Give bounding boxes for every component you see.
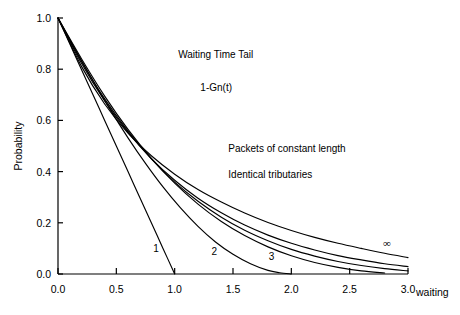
curve-label: 1 bbox=[153, 243, 159, 254]
chart-figure: 0.00.20.40.60.81.0 0.00.51.01.52.02.53.0… bbox=[0, 0, 460, 315]
y-axis-title: Probability bbox=[12, 121, 24, 171]
y-tick-label: 0.0 bbox=[36, 268, 51, 280]
x-tick-label: 1.5 bbox=[226, 283, 241, 295]
y-tick-label: 0.2 bbox=[36, 217, 51, 229]
chart-annotation: 1-Gn(t) bbox=[200, 82, 232, 93]
curve-label: ∞ bbox=[383, 237, 391, 249]
y-tick-label: 0.4 bbox=[36, 166, 51, 178]
x-axis-ticks bbox=[58, 268, 408, 274]
x-tick-label: 0.5 bbox=[109, 283, 124, 295]
x-axis-title: waiting bbox=[415, 286, 449, 298]
x-axis-tick-labels: 0.00.51.01.52.02.53.0 bbox=[51, 283, 416, 295]
chart-annotation: Packets of constant length bbox=[228, 143, 345, 154]
x-tick-label: 0.0 bbox=[51, 283, 66, 295]
x-tick-label: 2.0 bbox=[284, 283, 299, 295]
y-tick-label: 1.0 bbox=[36, 12, 51, 24]
x-tick-label: 1.0 bbox=[167, 283, 182, 295]
curve-1 bbox=[58, 18, 175, 274]
chart-annotation: Identical tributaries bbox=[228, 169, 312, 180]
y-tick-label: 0.6 bbox=[36, 114, 51, 126]
waiting-time-tail-plot: 0.00.20.40.60.81.0 0.00.51.01.52.02.53.0… bbox=[0, 0, 460, 315]
y-tick-label: 0.8 bbox=[36, 63, 51, 75]
curve-label: 3 bbox=[269, 251, 275, 262]
y-axis-tick-labels: 0.00.20.40.60.81.0 bbox=[36, 12, 51, 280]
x-tick-label: 2.5 bbox=[342, 283, 357, 295]
chart-annotations-group: Waiting Time Tail1-Gn(t)Packets of const… bbox=[178, 49, 345, 180]
curve-labels-group: 123∞ bbox=[153, 237, 391, 262]
curve-label: 2 bbox=[212, 246, 218, 257]
y-axis-ticks bbox=[58, 18, 63, 274]
x-tick-label: 3.0 bbox=[401, 283, 416, 295]
chart-annotation: Waiting Time Tail bbox=[178, 49, 253, 60]
